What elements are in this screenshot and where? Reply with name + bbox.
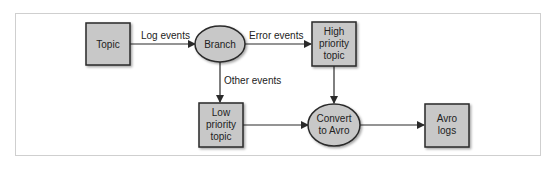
- node-topic: Topic: [86, 23, 130, 65]
- node-label: logs: [438, 125, 456, 136]
- node-label: Branch: [204, 39, 236, 50]
- node-label: High: [324, 26, 345, 37]
- node-branch: Branch: [195, 26, 245, 62]
- node-label: topic: [210, 131, 231, 142]
- node-label: to Avro: [319, 125, 350, 136]
- node-avro-logs: Avro logs: [425, 104, 469, 147]
- node-low-priority-topic: Low priority topic: [199, 103, 243, 147]
- node-label: Convert: [316, 113, 351, 124]
- node-label: Topic: [96, 39, 119, 50]
- node-label: priority: [319, 38, 349, 49]
- edge-label-other-events: Other events: [224, 75, 281, 86]
- node-high-priority-topic: High priority topic: [312, 22, 356, 66]
- edge-topic-branch: Log events: [130, 30, 195, 44]
- node-label: Avro: [437, 113, 458, 124]
- node-label: topic: [323, 50, 344, 61]
- node-convert-to-avro: Convert to Avro: [308, 104, 360, 146]
- edge-branch-low: Other events: [220, 62, 281, 102]
- edge-branch-high: Error events: [245, 30, 311, 44]
- edge-label-log-events: Log events: [141, 30, 190, 41]
- node-label: Low: [212, 107, 231, 118]
- flow-diagram: Log events Error events Other events Top…: [0, 0, 555, 169]
- node-label: priority: [206, 119, 236, 130]
- edge-label-error-events: Error events: [249, 30, 303, 41]
